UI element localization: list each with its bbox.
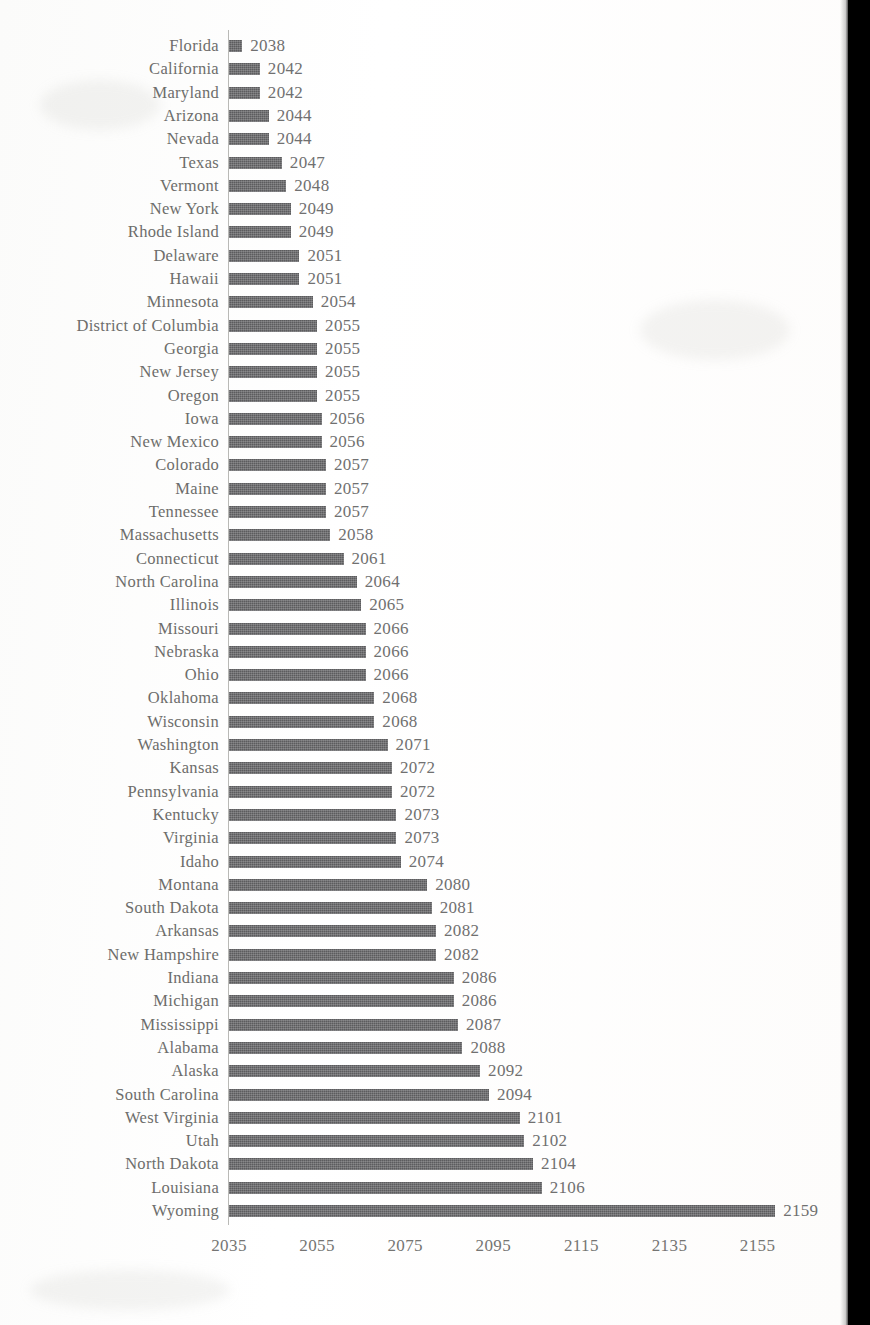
bar-row: West Virginia2101 bbox=[0, 1107, 848, 1129]
bar-value-label: 2042 bbox=[268, 58, 303, 80]
bar-value-label: 2044 bbox=[277, 105, 312, 127]
bar-row: Vermont2048 bbox=[0, 175, 848, 197]
bar-category-label: New York bbox=[0, 198, 219, 220]
bar-value-label: 2081 bbox=[440, 897, 475, 919]
bar-category-label: Kentucky bbox=[0, 804, 219, 826]
bar-value-label: 2051 bbox=[307, 245, 342, 267]
bar bbox=[229, 1065, 480, 1077]
bar-value-label: 2057 bbox=[334, 454, 369, 476]
bar-row: Hawaii2051 bbox=[0, 268, 848, 290]
bar-category-label: North Dakota bbox=[0, 1153, 219, 1175]
bar-category-label: Colorado bbox=[0, 454, 219, 476]
bar-row: Connecticut2061 bbox=[0, 548, 848, 570]
bar-value-label: 2080 bbox=[435, 874, 470, 896]
bar-category-label: Massachusetts bbox=[0, 524, 219, 546]
bar bbox=[229, 1182, 542, 1194]
bar bbox=[229, 203, 291, 215]
bar-row: Wisconsin2068 bbox=[0, 711, 848, 733]
bar-row: Montana2080 bbox=[0, 874, 848, 896]
bar-row: Arkansas2082 bbox=[0, 920, 848, 942]
bar-category-label: Vermont bbox=[0, 175, 219, 197]
bar-row: Florida2038 bbox=[0, 35, 848, 57]
bar-value-label: 2088 bbox=[470, 1037, 505, 1059]
bar bbox=[229, 599, 361, 611]
bar-value-label: 2055 bbox=[325, 315, 360, 337]
bar-value-label: 2072 bbox=[400, 757, 435, 779]
chart-page: Florida2038California2042Maryland2042Ari… bbox=[0, 0, 870, 1325]
bar-category-label: South Dakota bbox=[0, 897, 219, 919]
bar-category-label: Connecticut bbox=[0, 548, 219, 570]
bar-value-label: 2072 bbox=[400, 781, 435, 803]
bar-category-label: Oklahoma bbox=[0, 687, 219, 709]
bar-row: New Mexico2056 bbox=[0, 431, 848, 453]
bar bbox=[229, 832, 396, 844]
bar-category-label: Ohio bbox=[0, 664, 219, 686]
bar-category-label: Kansas bbox=[0, 757, 219, 779]
bar-row: Colorado2057 bbox=[0, 454, 848, 476]
bar bbox=[229, 1158, 533, 1170]
bar-row: California2042 bbox=[0, 58, 848, 80]
bar-row: Oklahoma2068 bbox=[0, 687, 848, 709]
bar bbox=[229, 576, 357, 588]
bar-row: Iowa2056 bbox=[0, 408, 848, 430]
bar-value-label: 2066 bbox=[374, 641, 409, 663]
bar-category-label: Georgia bbox=[0, 338, 219, 360]
bar-row: Alaska2092 bbox=[0, 1060, 848, 1082]
bar-value-label: 2102 bbox=[532, 1130, 567, 1152]
bar-row: Mississippi2087 bbox=[0, 1014, 848, 1036]
x-axis-tick-label: 2095 bbox=[453, 1232, 533, 1260]
bar bbox=[229, 856, 401, 868]
bar-value-label: 2055 bbox=[325, 338, 360, 360]
bar-category-label: Texas bbox=[0, 152, 219, 174]
bar-category-label: Maryland bbox=[0, 82, 219, 104]
bar bbox=[229, 646, 366, 658]
bar-category-label: Florida bbox=[0, 35, 219, 57]
bar bbox=[229, 1019, 458, 1031]
bar-value-label: 2056 bbox=[330, 408, 365, 430]
bar-value-label: 2101 bbox=[528, 1107, 563, 1129]
bar-value-label: 2049 bbox=[299, 221, 334, 243]
bar-category-label: Montana bbox=[0, 874, 219, 896]
bar-category-label: North Carolina bbox=[0, 571, 219, 593]
bar-row: Idaho2074 bbox=[0, 851, 848, 873]
bar-row: Kansas2072 bbox=[0, 757, 848, 779]
bar-category-label: Rhode Island bbox=[0, 221, 219, 243]
bar-value-label: 2038 bbox=[250, 35, 285, 57]
bar bbox=[229, 786, 392, 798]
bar-row: Illinois2065 bbox=[0, 594, 848, 616]
bar-value-label: 2073 bbox=[404, 804, 439, 826]
bar-row: Pennsylvania2072 bbox=[0, 781, 848, 803]
bar-value-label: 2071 bbox=[396, 734, 431, 756]
bar bbox=[229, 157, 282, 169]
bar-category-label: Utah bbox=[0, 1130, 219, 1152]
x-axis-tick-label: 2115 bbox=[541, 1232, 621, 1260]
bar bbox=[229, 669, 366, 681]
bar-value-label: 2066 bbox=[374, 618, 409, 640]
bar-value-label: 2058 bbox=[338, 524, 373, 546]
bar-category-label: Michigan bbox=[0, 990, 219, 1012]
bar-category-label: Indiana bbox=[0, 967, 219, 989]
bar-value-label: 2049 bbox=[299, 198, 334, 220]
bar-row: Maine2057 bbox=[0, 478, 848, 500]
bar-category-label: Hawaii bbox=[0, 268, 219, 290]
bar-category-label: West Virginia bbox=[0, 1107, 219, 1129]
bar-value-label: 2044 bbox=[277, 128, 312, 150]
bar bbox=[229, 180, 286, 192]
bar bbox=[229, 529, 330, 541]
bar-value-label: 2065 bbox=[369, 594, 404, 616]
bar-category-label: Arkansas bbox=[0, 920, 219, 942]
bar-category-label: Alabama bbox=[0, 1037, 219, 1059]
bar bbox=[229, 1089, 489, 1101]
bar-category-label: South Carolina bbox=[0, 1084, 219, 1106]
bar-row: Indiana2086 bbox=[0, 967, 848, 989]
bar-row: New Jersey2055 bbox=[0, 361, 848, 383]
bar-value-label: 2064 bbox=[365, 571, 400, 593]
bar-row: Wyoming2159 bbox=[0, 1200, 848, 1222]
bar-value-label: 2104 bbox=[541, 1153, 576, 1175]
bar-value-label: 2159 bbox=[783, 1200, 818, 1222]
bar bbox=[229, 623, 366, 635]
bar-row: Arizona2044 bbox=[0, 105, 848, 127]
bar-row: Oregon2055 bbox=[0, 385, 848, 407]
bar-chart-plot-area: Florida2038California2042Maryland2042Ari… bbox=[0, 0, 848, 1325]
bar-value-label: 2055 bbox=[325, 361, 360, 383]
